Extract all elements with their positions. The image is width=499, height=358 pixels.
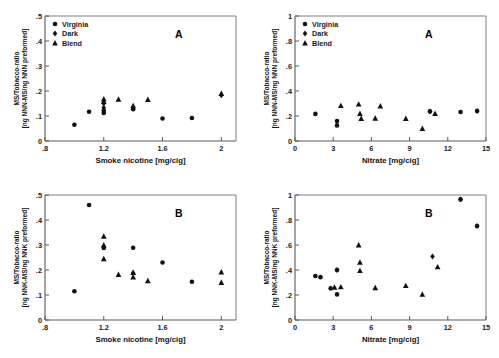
y-axis-title-line1: MS/Tobacco-ratio xyxy=(263,51,270,105)
data-point xyxy=(356,242,362,247)
y-tick-label: 0 xyxy=(288,316,292,325)
data-point xyxy=(116,272,122,277)
data-point xyxy=(357,259,363,264)
legend-marker-diamond xyxy=(53,31,58,37)
y-tick-label: .2 xyxy=(36,87,42,96)
data-point xyxy=(403,283,409,288)
series-blend xyxy=(101,233,224,285)
data-point xyxy=(335,123,340,128)
data-point xyxy=(332,284,338,289)
data-point xyxy=(87,203,92,208)
data-point xyxy=(101,233,107,238)
y-tick-label: .6 xyxy=(286,62,292,71)
data-point xyxy=(458,110,463,115)
data-point xyxy=(72,122,77,127)
data-point xyxy=(357,268,363,273)
chart-panel-bottom-right: 0.2.4.6.8103691215Nitrate [mg/cig]MS/Tob… xyxy=(250,179,499,358)
data-point xyxy=(335,292,340,297)
x-axis-title: Smoke nicotine [mg/cig] xyxy=(95,156,186,165)
y-tick-label: 0 xyxy=(288,137,292,146)
panel-letter: A xyxy=(425,28,433,40)
x-tick-label: 15 xyxy=(482,323,490,332)
y-axis-title-line1: MS/Tobacco-ratio xyxy=(13,51,20,105)
data-point xyxy=(190,116,195,121)
x-axis-title: Nitrate [mg/cig] xyxy=(362,156,420,165)
x-tick-label: .8 xyxy=(42,323,48,332)
data-point xyxy=(419,126,425,131)
y-tick-label: .8 xyxy=(286,216,292,225)
series-virginia xyxy=(313,197,479,297)
data-point xyxy=(190,279,195,284)
data-point xyxy=(145,278,151,283)
scatter-plot-bottom-left: 0.1.2.3.4.5.81.21.62Smoke nicotine [mg/c… xyxy=(0,179,249,358)
y-axis-title-line2: [ng NNN-MS/ng NNN preformed] xyxy=(271,29,279,129)
y-tick-label: .1 xyxy=(36,291,42,300)
x-axis-title: Smoke nicotine [mg/cig] xyxy=(95,335,186,344)
data-point xyxy=(475,223,480,229)
x-tick-label: 0 xyxy=(293,323,297,332)
legend-marker-circle xyxy=(53,22,58,27)
data-point xyxy=(419,291,425,296)
data-point xyxy=(338,284,344,289)
x-tick-label: 9 xyxy=(408,323,412,332)
x-tick-label: 9 xyxy=(408,144,412,153)
data-point xyxy=(335,267,340,273)
y-tick-label: .5 xyxy=(36,191,42,200)
data-point xyxy=(338,103,344,108)
y-tick-label: .4 xyxy=(36,216,43,225)
data-point xyxy=(432,111,438,116)
data-point xyxy=(131,245,136,250)
y-tick-label: .2 xyxy=(36,266,42,275)
x-tick-label: 2 xyxy=(219,144,223,153)
data-point xyxy=(313,112,318,117)
data-point xyxy=(313,274,318,279)
y-tick-label: .4 xyxy=(36,37,43,46)
series-virginia xyxy=(313,109,479,128)
x-axis-title: Nitrate [mg/cig] xyxy=(362,335,420,344)
legend-marker-circle xyxy=(303,22,308,27)
data-point xyxy=(160,116,165,121)
legend-label: Virginia xyxy=(62,20,89,29)
y-axis-title-line2: [ng NNN-MS/ng NNN preformed] xyxy=(21,29,29,129)
data-point xyxy=(101,242,107,247)
data-point xyxy=(318,275,323,280)
y-tick-label: .4 xyxy=(286,87,293,96)
y-tick-label: .6 xyxy=(286,241,292,250)
x-tick-label: 1.6 xyxy=(157,323,167,332)
legend-marker-triangle xyxy=(302,40,308,45)
data-point xyxy=(335,119,340,124)
data-point xyxy=(130,103,136,108)
y-axis-title-line2: [ng NNK-MS/ng NNK preformed] xyxy=(271,208,279,308)
legend-marker-diamond xyxy=(303,31,308,37)
data-point xyxy=(358,116,364,121)
y-tick-label: .5 xyxy=(36,12,42,21)
data-point xyxy=(430,254,435,260)
y-tick-label: .2 xyxy=(286,291,292,300)
x-tick-label: 12 xyxy=(444,323,452,332)
y-tick-label: .4 xyxy=(286,266,293,275)
data-point xyxy=(328,286,333,291)
x-tick-label: 6 xyxy=(369,323,373,332)
x-tick-label: 6 xyxy=(369,144,373,153)
data-point xyxy=(428,108,433,114)
series-blend xyxy=(101,91,224,109)
series-dark xyxy=(335,196,480,272)
data-point xyxy=(372,285,378,290)
legend-marker-triangle xyxy=(52,40,58,45)
legend-label: Dark xyxy=(62,29,78,38)
panel-letter: B xyxy=(175,207,183,219)
data-point xyxy=(458,196,463,202)
x-tick-label: 12 xyxy=(444,144,452,153)
plot-frame xyxy=(295,195,486,320)
data-point xyxy=(160,260,165,265)
legend-label: Dark xyxy=(312,29,328,38)
panel-letter: A xyxy=(175,28,183,40)
y-tick-label: .1 xyxy=(36,112,42,121)
scatter-plot-top-right: 0.2.4.6.8103691215Nitrate [mg/cig]MS/Tob… xyxy=(250,0,499,179)
legend-label: Virginia xyxy=(312,20,339,29)
series-dark xyxy=(102,244,136,276)
x-tick-label: 15 xyxy=(482,144,490,153)
legend-label: Blend xyxy=(62,39,82,48)
data-point xyxy=(377,103,383,108)
data-point xyxy=(475,108,480,114)
